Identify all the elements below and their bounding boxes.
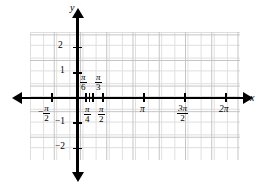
x-tick-pi-over-4 <box>89 93 91 102</box>
fraction-denominator: 6 <box>80 83 87 92</box>
fraction-denominator: 2 <box>98 115 105 124</box>
x-tick-3pi-over-2 <box>184 93 186 102</box>
fraction-pi-over-3: π3 <box>95 73 102 93</box>
y-tick-2 <box>73 47 82 49</box>
fraction-denominator: 3 <box>95 83 102 92</box>
fraction-3pi-over-2: 3π2 <box>177 104 188 124</box>
x-tick-label-pi-over-4: π4 <box>84 105 91 125</box>
y-tick-label-minus-1: −1 <box>55 117 65 127</box>
x-axis-arrow-left-icon <box>12 92 22 104</box>
x-tick-pi-over-6 <box>85 93 87 102</box>
x-tick-label-minus-pi-over-2: −π2 <box>38 104 50 124</box>
x-tick-pi-over-3 <box>92 93 94 102</box>
x-tick-2pi <box>225 93 227 102</box>
y-tick-minus-2 <box>73 148 82 150</box>
y-tick-label-minus-2: −2 <box>55 142 65 152</box>
fraction-pi-over-6: π6 <box>80 73 87 93</box>
x-tick-pi <box>143 93 145 102</box>
y-axis-line <box>76 16 78 176</box>
fraction-denominator: 4 <box>84 115 91 124</box>
y-axis-arrow-down-icon <box>72 172 84 182</box>
x-axis-label: x <box>250 92 254 103</box>
x-tick-label-pi-over-3: π3 <box>95 73 102 93</box>
y-tick-label-1: 1 <box>60 66 65 76</box>
fraction-denominator: 2 <box>177 114 188 123</box>
x-tick-label-3pi-over-2: 3π2 <box>177 104 188 124</box>
x-tick-label-pi: π <box>140 105 145 115</box>
fraction-denominator: 2 <box>43 114 50 123</box>
coordinate-plane-figure: x y 2 1 −1 −2 −π2 π6 π3 π4 π2 π 3π2 2π <box>0 0 266 185</box>
y-tick-label-2: 2 <box>58 41 63 51</box>
minus-sign: − <box>38 108 43 118</box>
fraction-pi-over-4: π4 <box>84 105 91 125</box>
y-axis-label: y <box>70 2 74 13</box>
x-tick-minus-pi-over-2 <box>51 93 53 102</box>
x-tick-label-pi-over-6: π6 <box>80 73 87 93</box>
x-tick-label-pi-over-2: π2 <box>98 105 105 125</box>
y-tick-minus-1 <box>73 122 82 124</box>
fraction-pi-over-2b: π2 <box>98 105 105 125</box>
x-axis-line <box>20 97 248 99</box>
x-tick-label-2pi: 2π <box>219 105 229 115</box>
fraction-pi-over-2: π2 <box>43 104 50 124</box>
x-tick-pi-over-2 <box>102 93 104 102</box>
